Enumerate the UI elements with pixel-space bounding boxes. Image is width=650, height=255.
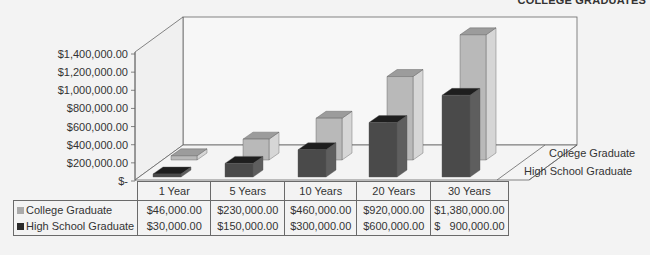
row-label-high-school: High School Graduate bbox=[14, 218, 138, 236]
y-tick-label: $1,000,000.00 bbox=[58, 84, 128, 96]
table-cell: $150,000.00 bbox=[211, 218, 285, 236]
bar-high-school-graduate bbox=[298, 143, 336, 177]
bar-high-school-graduate bbox=[225, 156, 263, 177]
y-tick-label: $200,000.00 bbox=[67, 157, 128, 169]
bar-high-school-graduate bbox=[369, 116, 407, 177]
table-header-1-year: 1 Year bbox=[138, 182, 211, 201]
y-tick-label: $400,000.00 bbox=[67, 139, 128, 151]
table-cell: $30,000.00 bbox=[138, 218, 211, 236]
y-axis: $-$200,000.00$400,000.00$600,000.00$800,… bbox=[58, 48, 135, 187]
y-tick-label: $1,400,000.00 bbox=[58, 48, 128, 60]
bar-high-school-graduate bbox=[442, 88, 480, 177]
y-tick-label: $800,000.00 bbox=[67, 102, 128, 114]
table-header-10-years: 10 Years bbox=[285, 182, 357, 201]
depth-label-high-school: High School Graduate bbox=[524, 165, 632, 177]
table-cell: $460,000.00 bbox=[285, 201, 357, 219]
y-tick-label: $600,000.00 bbox=[67, 121, 128, 133]
legend-swatch-college-icon bbox=[17, 207, 24, 214]
bar-college-graduate bbox=[243, 132, 279, 160]
y-tick-label: $1,200,000.00 bbox=[58, 66, 128, 78]
table-cell: $600,000.00 bbox=[357, 218, 431, 236]
table-row: College Graduate $46,000.00 $230,000.00 … bbox=[14, 201, 509, 219]
depth-label-college: College Graduate bbox=[549, 147, 635, 159]
table-cell: $230,000.00 bbox=[211, 201, 285, 219]
table-cell: $ 900,000.00 bbox=[431, 218, 508, 236]
table-cell: $1,380,000.00 bbox=[431, 201, 508, 219]
table-cell: $300,000.00 bbox=[285, 218, 357, 236]
table-cell: $920,000.00 bbox=[357, 201, 431, 219]
table-header-30-years: 30 Years bbox=[431, 182, 508, 201]
data-table: 1 Year 5 Years 10 Years 20 Years 30 Year… bbox=[13, 181, 509, 236]
table-cell: $46,000.00 bbox=[138, 201, 211, 219]
legend-swatch-high-school-icon bbox=[17, 223, 24, 230]
table-header-row: 1 Year 5 Years 10 Years 20 Years 30 Year… bbox=[14, 182, 509, 201]
table-header-5-years: 5 Years bbox=[211, 182, 285, 201]
table-row: High School Graduate $30,000.00 $150,000… bbox=[14, 218, 509, 236]
table-header-20-years: 20 Years bbox=[357, 182, 431, 201]
row-label-college: College Graduate bbox=[14, 201, 138, 219]
